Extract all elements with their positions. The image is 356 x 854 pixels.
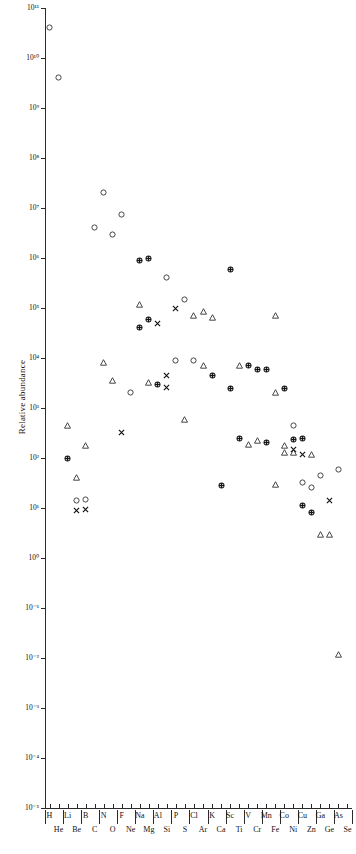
x-axis-label-he: He <box>50 825 68 834</box>
data-point-si <box>163 372 170 379</box>
x-tick <box>77 804 78 809</box>
x-axis-label-na: Na <box>131 811 149 820</box>
y-tick-label: 10⁴ <box>5 353 39 362</box>
x-tick <box>284 804 285 809</box>
data-point-ca <box>218 482 225 489</box>
x-tick <box>68 804 69 809</box>
x-tick <box>131 804 132 809</box>
x-axis-label-sc: Sc <box>221 811 239 820</box>
data-point-cu <box>299 479 306 486</box>
data-point-al <box>154 381 161 388</box>
data-point-k <box>209 314 216 321</box>
y-tick-label: 10¹¹ <box>5 3 39 12</box>
y-tick-label: 10⁷ <box>5 203 39 212</box>
x-tick <box>275 804 276 809</box>
x-axis-label-cl: Cl <box>185 811 203 820</box>
data-point-cu <box>299 435 306 442</box>
data-point-co <box>281 449 288 456</box>
data-point-be <box>73 497 80 504</box>
y-tick <box>41 358 46 359</box>
data-point-p <box>172 357 179 364</box>
data-point-as <box>335 466 342 473</box>
x-tick <box>293 804 294 809</box>
x-axis-label-f: F <box>113 811 131 820</box>
data-point-si <box>163 384 170 391</box>
x-axis-label-c: C <box>86 825 104 834</box>
x-tick <box>50 804 51 809</box>
data-point-cr <box>254 437 261 444</box>
x-tick <box>203 804 204 809</box>
y-tick <box>41 108 46 109</box>
data-point-ni <box>290 422 297 429</box>
x-axis-label-ge: Ge <box>320 825 338 834</box>
data-point-mg <box>145 255 152 262</box>
data-point-cr <box>254 366 261 373</box>
data-point-mg <box>145 379 152 386</box>
x-tick <box>320 804 321 809</box>
x-tick <box>239 804 240 809</box>
data-point-o <box>109 231 116 238</box>
data-point-b <box>82 442 89 449</box>
x-tick <box>86 804 87 809</box>
data-point-mg <box>145 316 152 323</box>
data-point-v <box>245 441 252 448</box>
y-tick <box>41 508 46 509</box>
data-point-s <box>181 416 188 423</box>
x-axis-label-co: Co <box>275 811 293 820</box>
data-point-cu <box>299 451 306 458</box>
data-point-c <box>91 224 98 231</box>
data-point-ar <box>200 308 207 315</box>
y-tick <box>41 758 46 759</box>
y-tick-label: 10⁻³ <box>5 703 39 712</box>
x-tick <box>122 804 123 809</box>
data-point-f <box>118 429 125 436</box>
data-point-b <box>82 506 89 513</box>
data-point-be <box>73 474 80 481</box>
data-point-al <box>154 320 161 327</box>
y-tick <box>41 208 46 209</box>
y-tick <box>41 258 46 259</box>
y-tick <box>41 608 46 609</box>
y-tick <box>41 708 46 709</box>
x-axis-label-be: Be <box>68 825 86 834</box>
data-point-na <box>136 301 143 308</box>
data-point-fe <box>272 389 279 396</box>
data-point-si <box>163 274 170 281</box>
y-tick-label: 10⁶ <box>5 253 39 262</box>
y-tick-label: 10² <box>5 453 39 462</box>
y-tick <box>41 808 46 809</box>
data-point-cl <box>190 312 197 319</box>
data-point-zn <box>308 451 315 458</box>
x-tick <box>302 804 303 809</box>
x-tick <box>347 804 348 809</box>
data-point-f <box>118 211 125 218</box>
data-point-ni <box>290 449 297 456</box>
abundance-scatter-chart: Relative abundance 10¹¹10¹⁰10⁹10⁸10⁷10⁶1… <box>0 0 356 854</box>
x-axis-label-ca: Ca <box>212 825 230 834</box>
x-tick <box>140 804 141 809</box>
x-tick <box>59 804 60 809</box>
data-point-sc <box>227 266 234 273</box>
data-point-ar <box>200 362 207 369</box>
x-tick <box>311 804 312 809</box>
data-point-mn <box>263 439 270 446</box>
data-point-zn <box>308 484 315 491</box>
y-tick-label: 10⁻¹ <box>5 603 39 612</box>
x-tick <box>194 804 195 809</box>
data-point-v <box>245 362 252 369</box>
y-tick <box>41 558 46 559</box>
x-axis-label-ti: Ti <box>230 825 248 834</box>
data-point-as <box>335 651 342 658</box>
y-tick-label: 10¹⁰ <box>5 53 39 62</box>
data-point-na <box>136 324 143 331</box>
data-point-ti <box>236 362 243 369</box>
data-point-ge <box>326 531 333 538</box>
y-tick-label: 10⁻⁴ <box>5 753 39 762</box>
x-axis-label-ar: Ar <box>194 825 212 834</box>
x-tick <box>104 804 105 809</box>
y-tick <box>41 158 46 159</box>
x-tick <box>338 804 339 809</box>
x-label-separator <box>352 810 353 824</box>
x-axis-label-ni: Ni <box>284 825 302 834</box>
x-tick <box>248 804 249 809</box>
